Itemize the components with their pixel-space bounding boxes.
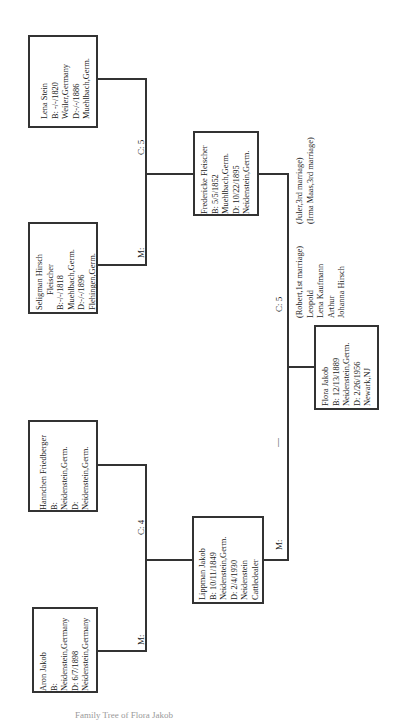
birth-date: B:-/-/1818 <box>56 249 67 310</box>
person-name: Seligman Hirsch <box>35 249 46 310</box>
person-box-aron-jakob: Aron Jakob B: Neidenstein,Germany D: 6/7… <box>32 607 98 693</box>
connector-lena-horizontal <box>98 78 146 80</box>
person-name: Fredericke Fleischer <box>200 145 211 214</box>
person-box-hannchen-friedberger: Hannchen Friedberger B: Neidenstein,Germ… <box>28 420 98 512</box>
death-date: D: 2/26/1956 <box>353 343 364 406</box>
connector-fredericke-right <box>259 173 288 175</box>
death-date: D: 2/4/1930 <box>230 537 241 600</box>
marriage-note: (Juler,3rd marriage) <box>295 137 306 224</box>
birth-date: B: <box>50 435 61 510</box>
birth-place: Neidenstein,Germany <box>60 618 71 691</box>
person-text: Hannchen Friedberger B: Neidenstein,Germ… <box>39 435 92 510</box>
death-date: D: <box>71 435 82 510</box>
label-main-dash: — <box>272 438 282 447</box>
death-date: D: 10/22/1895 <box>232 145 243 214</box>
person-box-fredericke-fleischer: Fredericke Fleischer B: 5/5/1852 Muehlba… <box>193 131 259 216</box>
birth-date: B: 12/13/1889 <box>332 343 343 406</box>
birth-place: Weiler,Germany <box>61 58 72 119</box>
diagram-caption: Family Tree of Flora Jakob <box>75 710 173 720</box>
death-date: D: 6/7/1898 <box>71 618 82 691</box>
person-text: Lena Stein B: -/-/1820 Weiler,Germany D:… <box>40 58 93 119</box>
death-place: Newark,NJ <box>363 343 374 406</box>
label-lower-marriage: M: <box>136 634 146 645</box>
death-place: Flehingen,Germ. <box>88 249 99 310</box>
person-text: Flora Jakob B: 12/13/1889 Neidenstein,Ge… <box>321 343 374 406</box>
death-date: D:-/-/1886 <box>72 58 83 119</box>
person-name: Aron Jakob <box>39 618 50 691</box>
label-lower-children: C: 4 <box>136 520 146 535</box>
person-box-seligman-hirsch-fleischer: Seligman Hirsch Fleischer B:-/-/1818 Mue… <box>28 222 98 314</box>
connector-seligman-horizontal <box>98 264 146 266</box>
sibling-name: Johanna Hirsch <box>337 246 348 318</box>
person-name: Hannchen Friedberger <box>39 435 50 510</box>
sibling-name: Leopold <box>306 246 317 318</box>
connector-lippman-right <box>264 559 288 561</box>
connector-to-flora <box>287 366 314 368</box>
label-main-marriage: M: <box>274 539 284 550</box>
birth-place: Muehlbach,Germ. <box>67 249 78 310</box>
label-upper-children: C: 5 <box>136 140 146 155</box>
person-name: Flora Jakob <box>321 343 332 406</box>
label-main-children: C: 5 <box>274 297 284 312</box>
death-date: D:-/-/1896 <box>77 249 88 310</box>
death-place: Neidenstein,Germany <box>81 618 92 691</box>
birth-place: Neidenstein,Germ. <box>342 343 353 406</box>
birth-date: B: <box>50 618 61 691</box>
death-place: Neidenstein,Germ. <box>242 145 253 214</box>
person-name-line2: Fleischer <box>46 249 57 310</box>
connector-hannchen-horizontal <box>98 464 146 466</box>
birth-place: Neidenstein,Germ. <box>60 435 71 510</box>
birth-place: Muehlbach,Germ. <box>221 145 232 214</box>
sibling-note: (Robert,1st marriage) <box>295 246 306 318</box>
connector-to-fredericke <box>145 173 193 175</box>
connector-lower-vertical <box>145 464 147 652</box>
connector-aron-horizontal <box>98 650 146 652</box>
person-name: Lena Stein <box>40 58 51 119</box>
person-text: Fredericke Fleischer B: 5/5/1852 Muehlba… <box>200 145 253 214</box>
siblings-list: (Robert,1st marriage) Leopold Lena Kaufm… <box>295 246 348 318</box>
birth-date: B: -/-/1820 <box>51 58 62 119</box>
person-text: Lippman Jakob B: 10/11/1849 Neidenstein,… <box>198 537 262 600</box>
person-name: Lippman Jakob <box>198 537 209 600</box>
label-upper-marriage: M: <box>136 247 146 258</box>
person-box-lippman-jakob: Lippman Jakob B: 10/11/1849 Neidenstein,… <box>192 516 264 604</box>
connector-to-lippman <box>145 559 192 561</box>
death-place: Neidenstein <box>240 537 251 600</box>
birth-date: B: 10/11/1849 <box>209 537 220 600</box>
occupation: Cattledealer <box>251 537 262 600</box>
birth-date: B: 5/5/1852 <box>211 145 222 214</box>
marriage-note: (Irma Maas,3rd marriage) <box>306 137 317 224</box>
person-box-flora-jakob: Flora Jakob B: 12/13/1889 Neidenstein,Ge… <box>314 325 379 410</box>
connector-upper-vertical <box>145 78 147 266</box>
person-text: Aron Jakob B: Neidenstein,Germany D: 6/7… <box>39 618 92 691</box>
birth-place: Neidenstein,Germ. <box>219 537 230 600</box>
marriage-notes: (Juler,3rd marriage) (Irma Maas,3rd marr… <box>295 137 316 224</box>
death-place: Muehlbach,Germ. <box>82 58 93 119</box>
sibling-name: Lena Kaufmann <box>316 246 327 318</box>
person-box-lena-stein: Lena Stein B: -/-/1820 Weiler,Germany D:… <box>28 35 98 128</box>
sibling-name: Arthur <box>327 246 338 318</box>
death-place: Neidenstein,Germ. <box>81 435 92 510</box>
person-text: Seligman Hirsch Fleischer B:-/-/1818 Mue… <box>35 249 99 310</box>
